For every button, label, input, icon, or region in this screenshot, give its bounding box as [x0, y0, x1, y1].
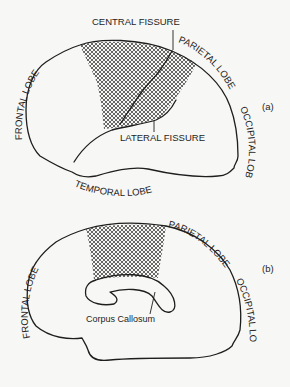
corpus-callosum-shape [85, 275, 174, 313]
label-parietal-lobe-b: PARIETAL LOBE [168, 218, 233, 269]
figure-a-lateral-view: CENTRAL FISSURE LATERAL FISSURE (a) FRON… [0, 0, 274, 198]
hatched-region-a [80, 42, 196, 129]
hatched-region-b [86, 225, 166, 280]
label-corpus-callosum: Corpus Callosum [86, 314, 155, 324]
panel-label-b: (b) [262, 263, 274, 274]
label-temporal-lobe-a: TEMPORAL LOBE [73, 178, 153, 198]
label-frontal-lobe-b: FRONTAL LOBE [19, 265, 41, 340]
panel-label-a: (a) [262, 101, 274, 112]
label-lateral-fissure: LATERAL FISSURE [120, 132, 205, 143]
brain-diagram: CENTRAL FISSURE LATERAL FISSURE (a) FRON… [0, 0, 290, 387]
label-central-fissure: CENTRAL FISSURE [92, 16, 180, 27]
